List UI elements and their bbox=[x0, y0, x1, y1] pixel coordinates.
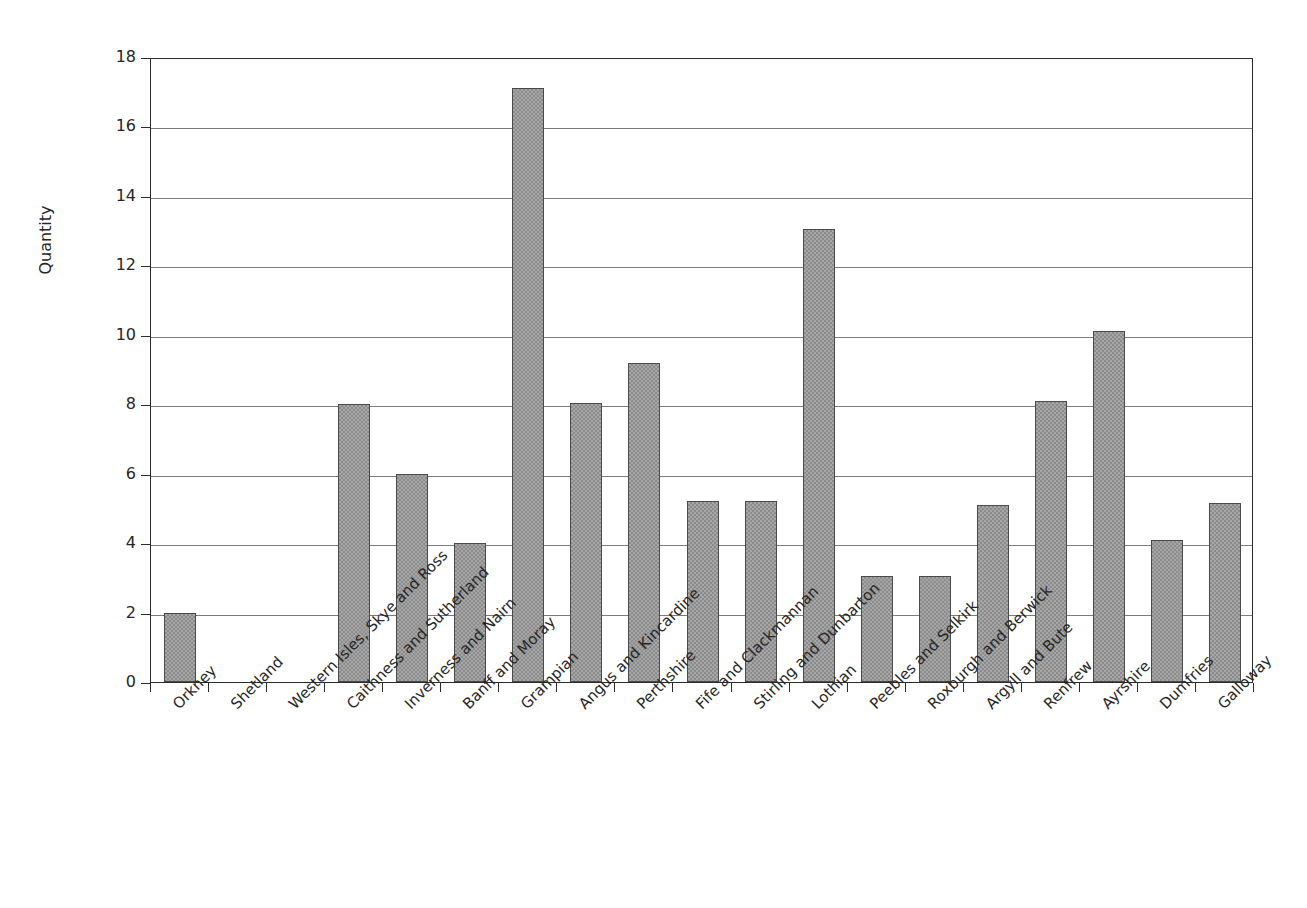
y-tick: 0 bbox=[94, 683, 150, 684]
y-tick-label: 0 bbox=[126, 672, 136, 691]
bar bbox=[164, 613, 196, 682]
x-tick-mark bbox=[1137, 683, 1138, 692]
bar bbox=[977, 505, 1009, 682]
y-axis-title: Quantity bbox=[36, 180, 55, 300]
bar bbox=[454, 543, 486, 682]
y-tick-label: 2 bbox=[126, 603, 136, 622]
x-tick-mark bbox=[905, 683, 906, 692]
bar bbox=[570, 403, 602, 683]
y-tick-label: 12 bbox=[116, 255, 136, 274]
y-tick-mark bbox=[141, 405, 150, 406]
y-tick-mark bbox=[141, 683, 150, 684]
x-tick-mark bbox=[672, 683, 673, 692]
x-tick-mark bbox=[1021, 683, 1022, 692]
bar bbox=[396, 474, 428, 682]
x-tick-mark bbox=[731, 683, 732, 692]
bar bbox=[1209, 503, 1241, 682]
y-tick-mark bbox=[141, 544, 150, 545]
y-tick-mark bbox=[141, 475, 150, 476]
x-tick-mark bbox=[440, 683, 441, 692]
y-tick: 14 bbox=[94, 197, 150, 198]
y-tick: 12 bbox=[94, 266, 150, 267]
bar bbox=[628, 363, 660, 682]
x-tick-mark bbox=[1253, 683, 1254, 692]
x-tick-mark bbox=[614, 683, 615, 692]
y-tick-mark bbox=[141, 127, 150, 128]
y-tick-mark bbox=[141, 336, 150, 337]
y-tick: 2 bbox=[94, 614, 150, 615]
bar-series bbox=[151, 59, 1252, 682]
bar bbox=[861, 576, 893, 682]
bar bbox=[1093, 331, 1125, 682]
x-tick-mark bbox=[150, 683, 151, 692]
y-tick-mark bbox=[141, 58, 150, 59]
y-tick-label: 14 bbox=[116, 186, 136, 205]
y-tick: 10 bbox=[94, 336, 150, 337]
y-tick-label: 4 bbox=[126, 533, 136, 552]
y-tick: 8 bbox=[94, 405, 150, 406]
y-tick: 18 bbox=[94, 58, 150, 59]
bar bbox=[338, 404, 370, 682]
y-tick-label: 6 bbox=[126, 464, 136, 483]
x-tick-mark bbox=[382, 683, 383, 692]
x-tick-mark bbox=[847, 683, 848, 692]
y-tick-label: 16 bbox=[116, 116, 136, 135]
x-tick-mark bbox=[324, 683, 325, 692]
x-tick-mark bbox=[1079, 683, 1080, 692]
y-tick-label: 8 bbox=[126, 394, 136, 413]
plot-area bbox=[150, 58, 1253, 683]
bar bbox=[745, 501, 777, 682]
x-tick-mark bbox=[1195, 683, 1196, 692]
bar bbox=[1151, 540, 1183, 682]
x-tick-mark bbox=[266, 683, 267, 692]
x-tick-mark bbox=[789, 683, 790, 692]
x-tick-mark bbox=[556, 683, 557, 692]
bar bbox=[1035, 401, 1067, 682]
y-tick-label: 10 bbox=[116, 325, 136, 344]
x-tick-mark bbox=[498, 683, 499, 692]
bar-chart: Quantity 024681012141618 OrkneyShetlandW… bbox=[0, 0, 1307, 908]
x-tick-mark bbox=[208, 683, 209, 692]
bar bbox=[512, 88, 544, 682]
y-tick-mark bbox=[141, 197, 150, 198]
bar bbox=[687, 501, 719, 682]
y-tick: 16 bbox=[94, 127, 150, 128]
y-tick: 4 bbox=[94, 544, 150, 545]
bar bbox=[803, 229, 835, 682]
x-tick-mark bbox=[963, 683, 964, 692]
bar bbox=[919, 576, 951, 682]
y-tick-label: 18 bbox=[116, 47, 136, 66]
y-tick-mark bbox=[141, 614, 150, 615]
y-tick-mark bbox=[141, 266, 150, 267]
y-tick: 6 bbox=[94, 475, 150, 476]
